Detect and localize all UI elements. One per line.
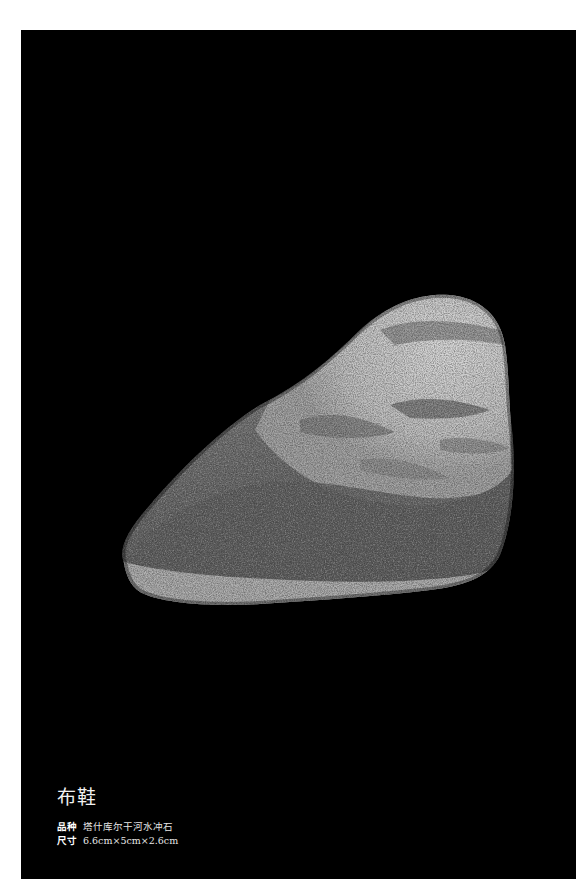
size-row: 尺寸6.6cm×5cm×2.6cm bbox=[57, 834, 178, 848]
variety-label: 品种 bbox=[57, 821, 77, 832]
stone-title: 布鞋 bbox=[57, 786, 178, 808]
stone-photo bbox=[0, 0, 576, 879]
size-value: 6.6cm×5cm×2.6cm bbox=[83, 835, 178, 846]
caption-block: 布鞋 品种塔什库尔干河水冲石 尺寸6.6cm×5cm×2.6cm bbox=[57, 786, 178, 848]
variety-value: 塔什库尔干河水冲石 bbox=[83, 821, 173, 832]
variety-row: 品种塔什库尔干河水冲石 bbox=[57, 820, 178, 834]
size-label: 尺寸 bbox=[57, 835, 77, 846]
